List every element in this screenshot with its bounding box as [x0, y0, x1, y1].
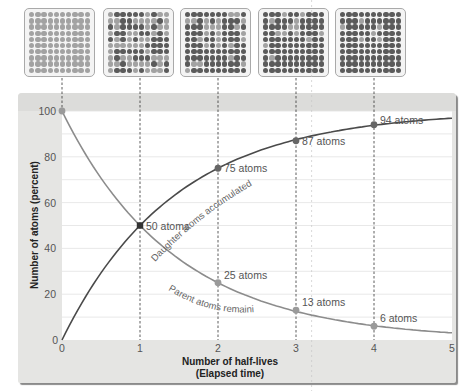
x-axis-label-line1: Number of half-lives: [182, 356, 279, 367]
x-tick-label: 1: [137, 342, 143, 354]
y-tick-label: 20: [44, 288, 56, 300]
x-tick-label: 4: [371, 342, 377, 354]
point-annotation: 13 atoms: [302, 296, 345, 308]
point-annotation: 75 atoms: [224, 162, 267, 174]
x-tick-label: 0: [59, 342, 65, 354]
point-annotation: 94 atoms: [380, 114, 423, 126]
half-life-chart: 020406080100 012345 Number of atoms (per…: [0, 0, 470, 391]
y-tick-label: 0: [52, 334, 58, 346]
y-axis-label: Number of atoms (percent): [29, 161, 40, 289]
y-axis-ticks: 020406080100: [38, 105, 58, 346]
point-annotation: 50 atoms: [146, 220, 189, 232]
y-tick-label: 100: [38, 105, 56, 117]
x-tick-label: 2: [215, 342, 221, 354]
x-axis-label-line2: (Elapsed time): [196, 368, 264, 379]
y-tick-label: 40: [44, 242, 56, 254]
x-tick-label: 3: [293, 342, 299, 354]
point-annotation: 6 atoms: [380, 312, 417, 324]
y-tick-label: 80: [44, 151, 56, 163]
y-tick-label: 60: [44, 197, 56, 209]
point-annotation: 25 atoms: [224, 269, 267, 281]
x-tick-label: 5: [449, 342, 455, 354]
point-annotation: 87 atoms: [302, 135, 345, 147]
x-axis-ticks: 012345: [59, 342, 455, 354]
